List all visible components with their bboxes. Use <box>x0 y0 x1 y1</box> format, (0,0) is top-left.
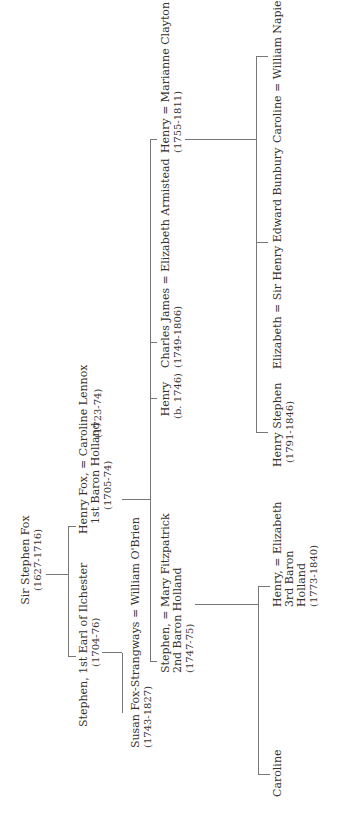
node-henry-b1746: Henry (b. 1746) <box>160 379 184 419</box>
node-stephen-2nd-baron-holland: Stephen, = Mary Fitzpatrick 2nd Baron Ho… <box>160 513 196 673</box>
connector-line <box>150 398 157 399</box>
connector-line <box>122 499 150 500</box>
connector-line <box>258 586 270 587</box>
connector-line <box>68 526 76 527</box>
person-dates: (1749-1806) <box>172 158 184 368</box>
family-tree-chart: Sir Stephen Fox (1627-1716) Stephen, 1st… <box>0 0 348 813</box>
connector-line <box>68 526 69 657</box>
person-name: Henry <box>160 379 172 419</box>
person-name: Caroline <box>272 750 284 798</box>
person-name: Henry Stephen <box>272 397 284 467</box>
node-henry-marianne-clayton: Henry = Marianne Clayton (1755-1811) <box>160 2 184 153</box>
connector-line <box>102 652 122 653</box>
person-dates: (1627-1716) <box>32 505 44 615</box>
person-name: Stephen, 1st Earl of Ilchester <box>78 563 90 727</box>
person-name: Henry = Marianne Clayton <box>160 2 172 153</box>
connector-line <box>122 653 123 713</box>
person-dates: (1743-1827) <box>142 517 154 748</box>
node-stephen-1st-earl-ilchester: Stephen, 1st Earl of Ilchester (1704-76) <box>78 563 102 727</box>
person-name: Elizabeth = Sir Henry Edward Bunbury <box>272 148 284 369</box>
person-name: Caroline = William Napier <box>272 0 284 143</box>
node-henry-stephen: Henry Stephen (1791-1846) <box>272 397 296 467</box>
connector-line <box>258 774 270 775</box>
person-title-2: Holland <box>296 502 308 607</box>
connector-line <box>195 604 258 605</box>
spouse-dates-caroline-lennox: (1723-74) <box>92 389 104 438</box>
connector-line <box>46 574 68 575</box>
node-caroline-napier: Caroline = William Napier <box>272 0 284 143</box>
node-henry-3rd-baron-holland: Henry, = Elizabeth 3rd Baron Holland (17… <box>272 502 320 607</box>
connector-line <box>150 139 157 140</box>
person-dates: (1747-75) <box>184 513 196 673</box>
connector-line <box>256 242 268 243</box>
connector-line <box>185 139 256 140</box>
connector-line <box>256 56 268 57</box>
person-dates: (1791-1846) <box>284 397 296 467</box>
person-dates: (1755-1811) <box>172 2 184 153</box>
connector-line <box>258 586 259 775</box>
connector-line <box>256 56 257 433</box>
person-name: Susan Fox-Strangways = William O'Brien <box>130 517 142 748</box>
connector-line <box>68 656 76 657</box>
node-elizabeth-bunbury: Elizabeth = Sir Henry Edward Bunbury <box>272 148 284 369</box>
person-name: Charles James = Elizabeth Armistead <box>160 158 172 368</box>
node-charles-james-fox: Charles James = Elizabeth Armistead (174… <box>160 158 184 368</box>
person-dates: (1704-76) <box>90 563 102 727</box>
person-name: Sir Stephen Fox <box>20 505 32 615</box>
node-susan-fox-strangways: Susan Fox-Strangways = William O'Brien (… <box>130 517 154 748</box>
node-sir-stephen-fox: Sir Stephen Fox (1627-1716) <box>20 505 44 615</box>
person-title: 2nd Baron Holland <box>172 513 184 673</box>
person-dates: (b. 1746) <box>172 379 184 419</box>
node-caroline: Caroline <box>272 750 284 798</box>
person-dates: (1773-1840) <box>308 502 320 607</box>
connector-line <box>150 342 157 343</box>
connector-line <box>256 432 268 433</box>
